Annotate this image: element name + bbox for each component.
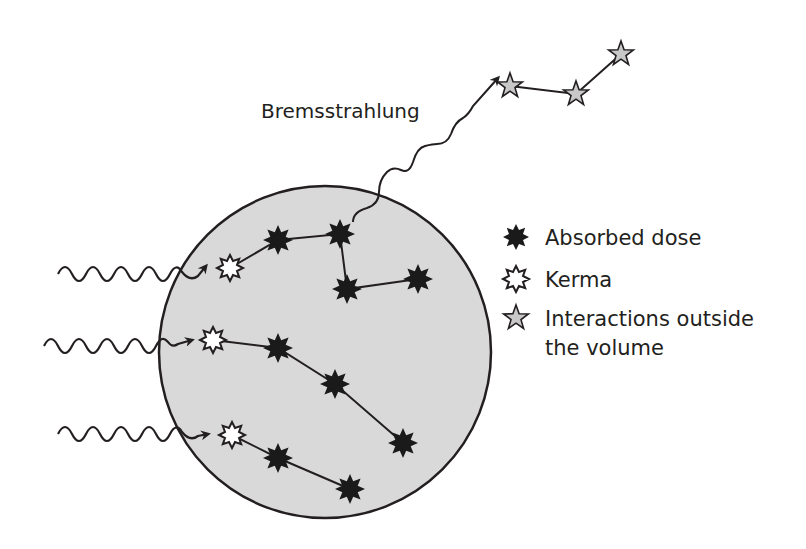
outside-star-icon — [498, 73, 523, 97]
kerma-star-icon — [219, 422, 245, 448]
dose-kerma-diagram: Bremsstrahlung Absorbed dose Kerma Inter… — [0, 0, 806, 549]
legend-label-absorbed-dose: Absorbed dose — [545, 226, 701, 250]
absorbed-dose-star-icon — [325, 219, 355, 249]
absorbed-dose-star-icon — [263, 443, 293, 473]
kerma-star-icon — [200, 327, 226, 353]
absorbed-dose-star-icon — [335, 474, 365, 504]
outside-star-icon — [564, 81, 589, 105]
legend-label-outside-line2: the volume — [545, 336, 664, 360]
legend-label-outside-line1: Interactions outside — [545, 307, 754, 331]
kerma-star-icon — [503, 266, 529, 292]
absorbed-dose-star-icon — [263, 333, 293, 363]
absorbed-dose-star-icon — [503, 224, 529, 250]
legend-label-kerma: Kerma — [545, 268, 612, 292]
absorbed-dose-star-icon — [388, 428, 418, 458]
absorbed-dose-star-icon — [403, 264, 433, 294]
absorbed-dose-star-icon — [332, 274, 362, 304]
absorbed-dose-star-icon — [320, 369, 350, 399]
outside-interaction-markers — [498, 41, 634, 105]
outside-star-icon — [504, 305, 529, 329]
kerma-star-icon — [217, 255, 243, 281]
legend: Absorbed dose Kerma Interactions outside… — [503, 224, 754, 360]
absorbed-dose-star-icon — [263, 225, 293, 255]
bremsstrahlung-label: Bremsstrahlung — [261, 99, 420, 123]
